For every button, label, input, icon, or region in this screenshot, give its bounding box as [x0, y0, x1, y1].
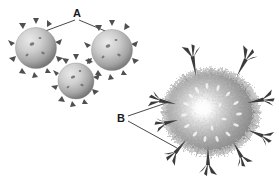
scientific-figure: A B	[0, 0, 279, 177]
label-a: A	[73, 7, 81, 19]
figure-canvas: A B	[0, 0, 279, 177]
label-b: B	[117, 112, 125, 124]
cell-body	[169, 74, 253, 150]
